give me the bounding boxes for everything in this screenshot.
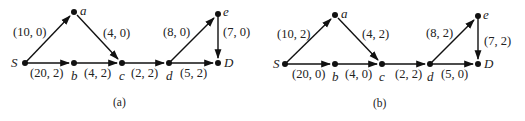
node-label-b-b: b [332,69,339,84]
node-label-b-D: D [483,56,494,71]
node-label-a-d: d [166,68,173,83]
node-label-b-e: e [483,7,489,22]
node-a-S [22,60,28,66]
edge-label-b-S-b: (20, 0) [292,67,325,81]
node-label-b-c: c [379,69,385,84]
flow-network-figure: S a b c d e D (10, 0) (20, 2) (4, 0) (4,… [0,0,525,121]
node-a-c [119,60,125,66]
node-b-e [475,13,481,19]
node-label-a-S: S [11,55,18,70]
graph-b: S a b c d e D (10, 2) (20, 0) (4, 2) (4,… [273,6,511,110]
edge-label-b-a-c: (4, 2) [362,27,389,41]
node-b-b [332,61,338,67]
node-b-D [475,61,481,67]
node-b-c [379,61,385,67]
node-a-D [215,60,221,66]
node-label-b-a: a [341,6,348,21]
edge-label-a-e-D: (7, 0) [223,25,250,39]
node-label-a-c: c [119,68,125,83]
graph-a: S a b c d e D (10, 0) (20, 2) (4, 0) (4,… [11,3,250,109]
node-label-b-d: d [427,69,434,84]
node-a-d [166,60,172,66]
edge-label-b-e-D: (7, 2) [484,34,511,48]
node-b-d [427,61,433,67]
edge-b-S-a [285,19,331,64]
node-a-a [71,9,77,15]
node-label-a-e: e [223,4,229,19]
node-b-a [332,12,338,18]
edge-label-b-c-d: (2, 2) [395,67,422,81]
node-label-b-S: S [273,56,280,71]
caption-b: (b) [373,97,387,110]
edge-label-a-c-d: (2, 2) [131,66,158,80]
caption-a: (a) [113,96,126,109]
edge-label-a-a-c: (4, 0) [103,26,130,40]
node-label-a-b: b [71,68,78,83]
edge-label-a-b-c: (4, 2) [84,66,111,80]
node-label-a-D: D [223,55,234,70]
edge-label-b-S-a: (10, 2) [277,27,310,41]
node-a-e [215,11,221,17]
edge-label-b-d-D: (5, 0) [441,67,468,81]
edge-a-S-a [25,16,70,63]
node-label-a-a: a [80,3,87,18]
edge-label-a-S-b: (20, 2) [30,66,63,80]
node-a-b [71,60,77,66]
node-b-S [282,61,288,67]
edge-label-a-d-e: (8, 0) [163,25,190,39]
edge-label-a-S-a: (10, 0) [13,25,46,39]
edge-label-b-b-c: (4, 0) [345,67,372,81]
edge-label-b-d-e: (8, 2) [426,26,453,40]
edge-label-a-d-D: (5, 2) [180,66,207,80]
